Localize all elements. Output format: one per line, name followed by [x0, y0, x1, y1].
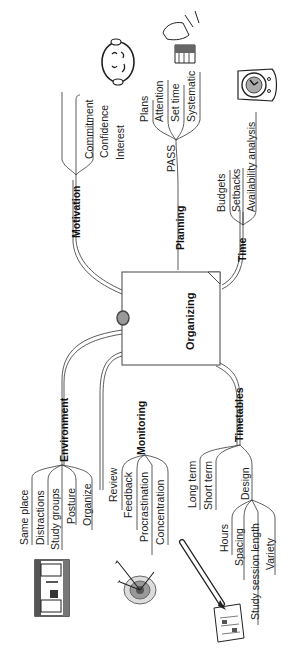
planning-item: Set time [169, 83, 181, 122]
timetables-design-label: Design [239, 467, 251, 500]
time-item: Availability analysis [245, 122, 257, 212]
motivation-item: Commitment [83, 99, 95, 159]
monitoring-item: Procrastination [138, 472, 150, 542]
branch-label-timetables: Timetables [233, 387, 245, 442]
design-item: Spacing [233, 528, 245, 566]
branch-label-planning: Planning [174, 206, 186, 250]
branch-monitoring: Monitoring Review Feedback Procrastinati… [107, 401, 168, 555]
branch-timetables: Timetables Long term Short term Design H… [186, 387, 276, 625]
motivation-item: Confidence [98, 105, 110, 158]
hand-writing-icon [163, 11, 199, 63]
timetables-item: Short term [202, 461, 214, 510]
branch-motivation: Motivation Commitment Confidence Interes… [62, 92, 126, 238]
center-node: Organizing [117, 272, 220, 365]
thinking-face-icon [102, 39, 134, 85]
node-pin-icon [117, 311, 129, 325]
time-item: Setbacks [230, 169, 242, 212]
environment-item: Posture [65, 488, 77, 524]
time-item: Budgets [215, 173, 227, 212]
environment-item: Same place [18, 489, 30, 545]
planning-item: Attention [153, 80, 165, 122]
motivation-item: Interest [114, 125, 126, 160]
study-desk-icon [35, 560, 69, 616]
planning-item: Systematic [185, 71, 197, 122]
clock-icon [238, 69, 277, 101]
design-item: Variety [264, 537, 276, 570]
branch-time: Time Budgets Setbacks Availability analy… [215, 112, 257, 262]
branch-label-environment: Environment [58, 397, 70, 462]
design-item: Study session length [249, 523, 261, 620]
environment-item: Distractions [34, 490, 46, 545]
branch-planning: Planning PASS Plans Attention Set time S… [138, 71, 200, 250]
mind-map: Organizing Motivation Commitment Confide… [0, 0, 300, 666]
environment-item: Study groups [49, 488, 61, 550]
branch-label-time: Time [236, 238, 248, 262]
branch-environment: Environment Same place Distractions Stud… [18, 397, 93, 550]
branch-label-motivation: Motivation [70, 186, 82, 239]
timetables-item: Long term [186, 460, 198, 508]
environment-item: Organize [81, 483, 93, 526]
planning-sub-label: PASS [165, 145, 177, 172]
monitoring-item: Feedback [122, 471, 134, 518]
monitoring-item: Review [107, 467, 119, 502]
design-item: Hours [218, 524, 230, 552]
monitoring-item: Concentration [154, 479, 166, 545]
branch-label-monitoring: Monitoring [135, 401, 147, 455]
center-label: Organizing [184, 293, 196, 350]
target-arrows-icon [115, 560, 156, 604]
planning-item: Plans [138, 96, 150, 122]
